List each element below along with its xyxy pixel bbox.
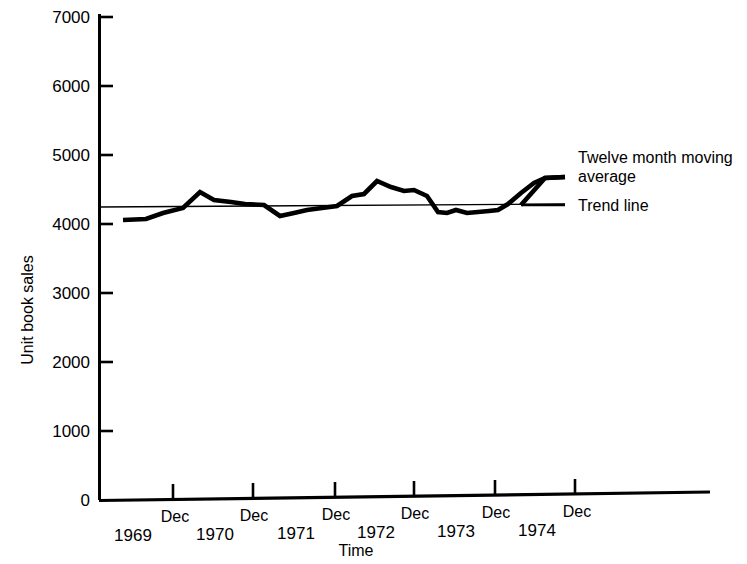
y-tick-label-5000: 5000 xyxy=(52,146,90,165)
x-dec-label-5: Dec xyxy=(482,504,510,521)
twelve-month-moving-average-series xyxy=(123,177,565,220)
x-year-label-1969: 1969 xyxy=(114,526,152,545)
legend-label-moving-average-line2: average xyxy=(578,168,636,185)
y-tick-label-3000: 3000 xyxy=(52,284,90,303)
x-axis-title: Time xyxy=(339,542,374,559)
legend-label-moving-average-line1: Twelve month moving xyxy=(578,149,733,166)
chart-container: 7000 6000 5000 4000 3000 2000 1000 0 Uni… xyxy=(0,0,747,564)
legend-swatch-moving-average xyxy=(521,177,565,205)
x-year-label-1970: 1970 xyxy=(196,525,234,544)
y-tick-label-4000: 4000 xyxy=(52,215,90,234)
y-axis-ticks xyxy=(99,17,113,431)
x-year-label-1971: 1971 xyxy=(277,524,315,543)
y-axis-title: Unit book sales xyxy=(19,255,36,364)
x-axis-line xyxy=(99,492,710,501)
x-year-label-1973: 1973 xyxy=(437,522,475,541)
y-tick-label-2000: 2000 xyxy=(52,353,90,372)
y-axis-tick-labels: 7000 6000 5000 4000 3000 2000 1000 0 xyxy=(52,8,90,510)
y-tick-label-7000: 7000 xyxy=(52,8,90,27)
x-dec-label-2: Dec xyxy=(240,507,268,524)
line-chart: 7000 6000 5000 4000 3000 2000 1000 0 Uni… xyxy=(0,0,747,564)
x-year-label-1974: 1974 xyxy=(518,521,556,540)
y-tick-label-6000: 6000 xyxy=(52,77,90,96)
x-dec-label-3: Dec xyxy=(322,506,350,523)
y-tick-label-0: 0 xyxy=(81,491,90,510)
x-dec-label-6: Dec xyxy=(563,503,591,520)
y-tick-label-1000: 1000 xyxy=(52,422,90,441)
chart-legend: Twelve month moving average Trend line xyxy=(521,149,733,214)
x-dec-label-4: Dec xyxy=(401,505,429,522)
legend-label-trend-line: Trend line xyxy=(578,197,649,214)
x-year-label-1972: 1972 xyxy=(357,523,395,542)
x-dec-label-1: Dec xyxy=(161,508,189,525)
